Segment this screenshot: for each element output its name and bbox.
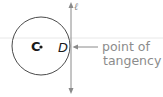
annotation-line2: tangency [103, 54, 161, 68]
annotation-arrowhead-icon [73, 45, 79, 50]
arrowhead-down-icon [69, 88, 74, 94]
arrowhead-up-icon [69, 2, 74, 8]
annotation-line1: point of [102, 40, 150, 54]
line-label-ell: ℓ [74, 2, 78, 12]
center-label-c: C [31, 40, 41, 53]
point-label-d: D [58, 41, 68, 54]
